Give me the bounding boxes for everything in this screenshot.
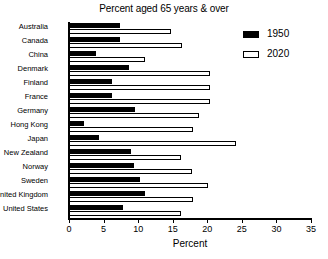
bar-1950 xyxy=(69,37,120,42)
bar-1950 xyxy=(69,149,131,154)
bar-2020 xyxy=(69,183,208,188)
legend-swatch-1950 xyxy=(243,31,259,38)
y-axis-tick-label: United States xyxy=(0,205,48,213)
x-axis-tick-mark xyxy=(207,219,208,223)
bar-2020 xyxy=(69,85,210,90)
x-axis-tick-mark xyxy=(311,219,312,223)
y-axis-tick-label: Japan xyxy=(0,135,48,143)
bar-1950 xyxy=(69,93,112,98)
x-axis-tick-mark xyxy=(69,219,70,223)
chart-legend: 1950 2020 xyxy=(243,28,323,68)
bar-1950 xyxy=(69,205,123,210)
bar-2020 xyxy=(69,197,193,202)
y-axis-tick-label: China xyxy=(0,51,48,59)
chart-category-row: France xyxy=(69,92,311,106)
bar-1950 xyxy=(69,121,84,126)
bar-2020 xyxy=(69,113,199,118)
chart-category-row: Sweden xyxy=(69,176,311,190)
y-axis-tick-label: Hong Kong xyxy=(0,121,48,129)
x-axis-tick-label: 15 xyxy=(158,224,188,235)
y-axis-tick-label: Sweden xyxy=(0,177,48,185)
bar-2020 xyxy=(69,169,192,174)
x-axis-title: Percent xyxy=(69,238,311,250)
legend-entry-2020: 2020 xyxy=(243,48,323,68)
x-axis-tick-label: 0 xyxy=(54,224,84,235)
y-axis-tick-label: Finland xyxy=(0,79,48,87)
y-axis-tick-label: Germany xyxy=(0,107,48,115)
bar-1950 xyxy=(69,177,140,182)
x-axis-tick-label: 30 xyxy=(261,224,291,235)
bar-2020 xyxy=(69,43,182,48)
bar-1950 xyxy=(69,65,129,70)
bar-2020 xyxy=(69,141,236,146)
chart-category-row: United Kingdom xyxy=(69,190,311,204)
bar-chart: Percent aged 65 years & over AustraliaCa… xyxy=(0,0,328,259)
bar-1950 xyxy=(69,51,96,56)
x-axis-tick-mark xyxy=(173,219,174,223)
x-axis-tick-mark xyxy=(138,219,139,223)
y-axis-tick-label: Norway xyxy=(0,163,48,171)
bar-2020 xyxy=(69,211,181,216)
x-axis-tick-label: 10 xyxy=(123,224,153,235)
chart-category-row: Finland xyxy=(69,78,311,92)
legend-entry-1950: 1950 xyxy=(243,28,323,48)
legend-swatch-2020 xyxy=(243,51,259,58)
bar-2020 xyxy=(69,71,210,76)
x-axis-line xyxy=(68,218,312,220)
chart-title: Percent aged 65 years & over xyxy=(0,3,328,15)
x-axis-tick-label: 20 xyxy=(192,224,222,235)
chart-category-row: Hong Kong xyxy=(69,120,311,134)
bar-2020 xyxy=(69,57,145,62)
bar-2020 xyxy=(69,155,181,160)
bar-1950 xyxy=(69,107,135,112)
chart-category-row: Norway xyxy=(69,162,311,176)
bar-1950 xyxy=(69,79,112,84)
chart-category-row: Germany xyxy=(69,106,311,120)
y-axis-tick-label: Australia xyxy=(0,23,48,31)
x-axis-tick-label: 25 xyxy=(227,224,257,235)
legend-label-2020: 2020 xyxy=(267,48,289,60)
x-axis-tick-label: 35 xyxy=(296,224,326,235)
bar-2020 xyxy=(69,99,210,104)
x-axis-tick-mark xyxy=(242,219,243,223)
legend-label-1950: 1950 xyxy=(267,28,289,40)
bar-1950 xyxy=(69,163,134,168)
x-axis-tick-label: 5 xyxy=(89,224,119,235)
bar-2020 xyxy=(69,29,171,34)
y-axis-tick-label: New Zealand xyxy=(0,149,48,157)
y-axis-tick-label: United Kingdom xyxy=(0,191,48,199)
chart-category-row: New Zealand xyxy=(69,148,311,162)
x-axis-tick-mark xyxy=(104,219,105,223)
chart-category-row: United States xyxy=(69,204,311,218)
y-axis-tick-label: Canada xyxy=(0,37,48,45)
bar-2020 xyxy=(69,127,193,132)
y-axis-tick-label: Denmark xyxy=(0,65,48,73)
x-axis-tick-mark xyxy=(276,219,277,223)
bar-1950 xyxy=(69,23,120,28)
y-axis-tick-label: France xyxy=(0,93,48,101)
chart-category-row: Japan xyxy=(69,134,311,148)
bar-1950 xyxy=(69,191,145,196)
bar-1950 xyxy=(69,135,99,140)
